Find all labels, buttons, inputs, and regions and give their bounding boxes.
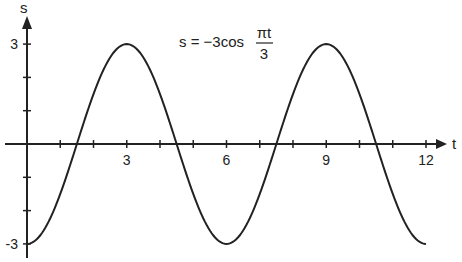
chart: 369123-3 s t s = −3cos πt 3 — [0, 0, 462, 262]
y-tick-label: -3 — [6, 236, 19, 252]
x-tick-label: 3 — [123, 152, 131, 168]
equation-lhs: s = −3cos — [179, 33, 244, 50]
y-tick-label: 3 — [10, 36, 18, 52]
equation-numerator: πt — [257, 24, 272, 41]
equation-annotation: s = −3cos πt 3 — [179, 24, 273, 62]
x-tick-label: 6 — [223, 152, 231, 168]
axes — [5, 16, 447, 258]
x-axis-arrow-icon — [436, 139, 447, 149]
x-tick-label: 9 — [322, 152, 330, 168]
equation-denominator: 3 — [260, 45, 268, 62]
x-axis-label: t — [452, 135, 457, 152]
y-axis-arrow-icon — [22, 16, 32, 29]
y-axis-label: s — [20, 0, 28, 16]
x-tick-label: 12 — [418, 152, 434, 168]
